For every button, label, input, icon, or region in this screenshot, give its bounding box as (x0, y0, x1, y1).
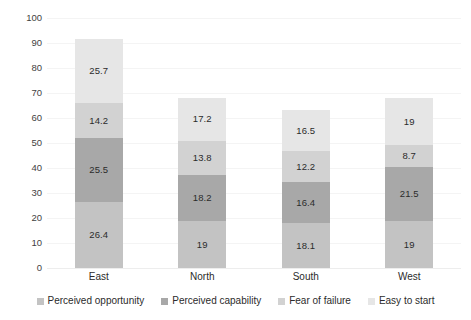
bar-segment-value-label: 12.2 (296, 162, 315, 172)
bar-group[interactable]: 1918.213.817.2 (178, 98, 226, 269)
bar-segment-value-label: 8.7 (402, 151, 416, 161)
gridline (47, 18, 461, 19)
legend-label: Fear of failure (289, 296, 351, 306)
y-axis-tick-label: 20 (2, 213, 42, 223)
bar-segment[interactable]: 18.1 (282, 223, 330, 268)
bar-group[interactable]: 1921.58.719 (385, 98, 433, 269)
y-axis-tick-label: 60 (2, 113, 42, 123)
legend-item[interactable]: Fear of failure (278, 296, 351, 306)
legend-swatch-icon (278, 298, 285, 305)
x-axis-category-label: West (374, 272, 444, 282)
legend-swatch-icon (161, 298, 168, 305)
y-axis-tick-label: 10 (2, 238, 42, 248)
legend-swatch-icon (37, 298, 44, 305)
gridline (47, 268, 461, 269)
bar-segment-value-label: 25.7 (89, 66, 108, 76)
legend-label: Perceived capability (172, 296, 261, 306)
bar-segment[interactable]: 12.2 (282, 151, 330, 182)
x-axis: EastNorthSouthWest (47, 272, 461, 288)
y-axis-tick-label: 100 (2, 13, 42, 23)
bar-segment[interactable]: 25.7 (75, 39, 123, 103)
bar-segment-value-label: 19 (197, 240, 208, 250)
legend-label: Easy to start (379, 296, 435, 306)
stacked-bar-chart: 1009080706050403020100 26.425.514.225.71… (0, 0, 471, 320)
y-axis-tick-label: 50 (2, 138, 42, 148)
y-axis-tick-label: 90 (2, 38, 42, 48)
bar-segment[interactable]: 26.4 (75, 202, 123, 268)
bar-segment-value-label: 25.5 (89, 165, 108, 175)
bar-segment[interactable]: 19 (178, 221, 226, 269)
chart-legend: Perceived opportunityPerceived capabilit… (0, 296, 471, 306)
bar-group[interactable]: 18.116.412.216.5 (282, 110, 330, 268)
x-axis-category-label: South (271, 272, 341, 282)
legend-swatch-icon (368, 298, 375, 305)
bar-segment-value-label: 18.1 (296, 241, 315, 251)
bar-segment[interactable]: 16.4 (282, 182, 330, 223)
y-axis-tick-label: 70 (2, 88, 42, 98)
y-axis-tick-label: 0 (2, 263, 42, 273)
y-axis-tick-label: 80 (2, 63, 42, 73)
bar-segment[interactable]: 21.5 (385, 167, 433, 221)
x-axis-category-label: East (64, 272, 134, 282)
bar-segment[interactable]: 18.2 (178, 175, 226, 221)
bar-segment-value-label: 19 (404, 240, 415, 250)
bar-segment[interactable]: 19 (385, 98, 433, 146)
y-axis-tick-label: 30 (2, 188, 42, 198)
legend-item[interactable]: Perceived capability (161, 296, 261, 306)
legend-item[interactable]: Easy to start (368, 296, 435, 306)
bar-segment[interactable]: 14.2 (75, 103, 123, 139)
x-axis-category-label: North (167, 272, 237, 282)
bar-segment[interactable]: 16.5 (282, 110, 330, 151)
bar-segment-value-label: 19 (404, 117, 415, 127)
bar-segment-value-label: 26.4 (89, 230, 108, 240)
legend-item[interactable]: Perceived opportunity (37, 296, 145, 306)
bar-segment-value-label: 21.5 (400, 189, 419, 199)
bar-group[interactable]: 26.425.514.225.7 (75, 39, 123, 269)
bar-segment-value-label: 18.2 (193, 193, 212, 203)
bar-segment-value-label: 16.5 (296, 126, 315, 136)
bar-segment-value-label: 14.2 (89, 116, 108, 126)
bar-segment[interactable]: 17.2 (178, 98, 226, 141)
y-axis-tick-label: 40 (2, 163, 42, 173)
bar-segment[interactable]: 25.5 (75, 138, 123, 202)
bar-segment-value-label: 16.4 (296, 198, 315, 208)
legend-label: Perceived opportunity (48, 296, 145, 306)
y-axis: 1009080706050403020100 (0, 18, 42, 268)
bar-segment[interactable]: 13.8 (178, 141, 226, 176)
bar-segment-value-label: 13.8 (193, 153, 212, 163)
bar-segment-value-label: 17.2 (193, 114, 212, 124)
bar-segment[interactable]: 8.7 (385, 145, 433, 167)
plot-area: 26.425.514.225.71918.213.817.218.116.412… (47, 18, 461, 268)
bar-segment[interactable]: 19 (385, 221, 433, 269)
